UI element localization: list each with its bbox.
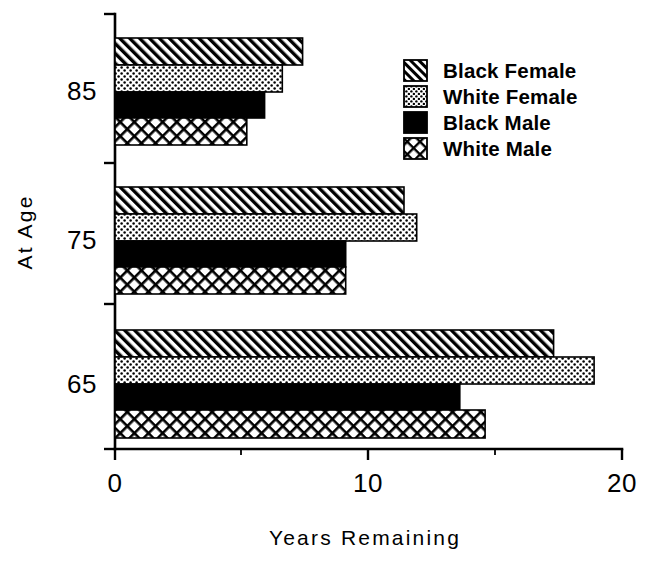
bar-85-white-female [115, 65, 282, 92]
bar-group-65 [115, 330, 594, 438]
legend-item-black-male: Black Male [404, 111, 551, 134]
bar-group-75 [115, 187, 417, 294]
crosshatch-swatch-icon [404, 138, 427, 159]
bar-75-black-female [115, 187, 404, 214]
dotted-swatch-icon [404, 86, 427, 107]
legend: Black Female White Female Black Male Whi… [404, 59, 578, 160]
bar-65-white-male [115, 410, 485, 438]
bar-85-black-female [115, 38, 303, 65]
legend-item-black-female: Black Female [404, 59, 576, 82]
bar-chart: 85 75 65 0 10 20 Years Remaining At Age … [0, 0, 654, 567]
y-axis-title: At Age [13, 194, 36, 269]
y-tick-label-75: 75 [67, 225, 97, 255]
legend-label-black-male: Black Male [443, 111, 551, 134]
bar-65-white-female [115, 357, 594, 384]
legend-item-white-female: White Female [404, 85, 578, 108]
y-tick-label-85: 85 [67, 76, 97, 106]
bar-85-black-male [115, 92, 265, 118]
bar-group-85 [115, 38, 303, 145]
solid-black-swatch-icon [404, 112, 427, 133]
legend-item-white-male: White Male [404, 137, 552, 160]
x-tick-label-20: 20 [607, 468, 637, 498]
x-axis-title: Years Remaining [269, 526, 461, 549]
bar-65-black-female [115, 330, 554, 357]
y-tick-label-65: 65 [67, 369, 97, 399]
bar-75-white-male [115, 267, 346, 294]
legend-label-white-female: White Female [443, 85, 578, 108]
legend-label-white-male: White Male [443, 137, 552, 160]
bar-75-black-male [115, 241, 346, 267]
bar-85-white-male [115, 118, 247, 145]
chart-canvas: 85 75 65 0 10 20 Years Remaining At Age … [0, 0, 654, 567]
bar-65-black-male [115, 384, 460, 410]
bar-75-white-female [115, 214, 417, 241]
x-tick-label-10: 10 [353, 468, 383, 498]
diagonal-hatch-swatch-icon [404, 60, 427, 81]
x-tick-label-0: 0 [108, 468, 123, 498]
legend-label-black-female: Black Female [443, 59, 576, 82]
